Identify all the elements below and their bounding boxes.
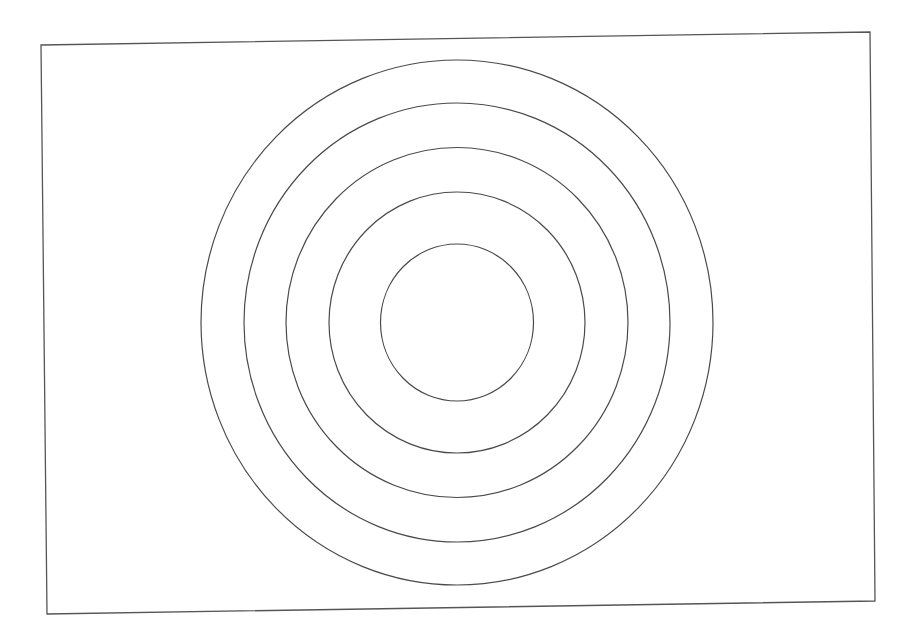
circle-group (201, 60, 713, 585)
circle-5 (201, 60, 713, 585)
circle-4 (244, 103, 670, 542)
circle-1 (381, 244, 534, 401)
page-frame (41, 32, 875, 614)
circle-2 (329, 192, 585, 453)
circle-3 (286, 148, 628, 498)
diagram-canvas (0, 0, 919, 636)
concentric-circles-diagram (0, 0, 919, 636)
